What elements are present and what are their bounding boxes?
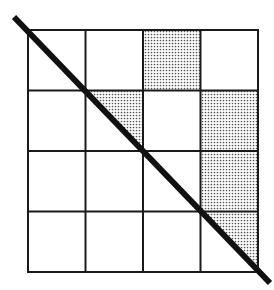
shaded-cell [201,91,259,152]
shaded-cell [201,151,259,212]
shaded-cell [143,30,201,91]
grid-diagram [0,0,274,290]
